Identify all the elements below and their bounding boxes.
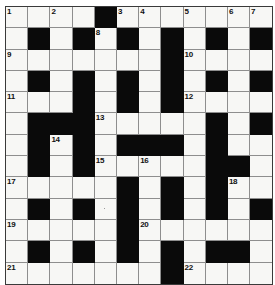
grid-letter-cell[interactable]: 13 (95, 113, 117, 134)
grid-letter-cell[interactable] (28, 220, 50, 241)
grid-letter-cell[interactable] (28, 50, 50, 71)
grid-letter-cell[interactable] (184, 28, 206, 49)
grid-letter-cell[interactable] (250, 177, 272, 198)
grid-letter-cell[interactable] (50, 199, 72, 220)
grid-letter-cell[interactable] (184, 135, 206, 156)
grid-letter-cell[interactable] (50, 263, 72, 284)
grid-letter-cell[interactable] (228, 92, 250, 113)
grid-letter-cell[interactable] (250, 241, 272, 262)
grid-letter-cell[interactable] (50, 177, 72, 198)
grid-letter-cell[interactable] (206, 92, 228, 113)
grid-letter-cell[interactable]: 7 (250, 7, 272, 28)
grid-letter-cell[interactable]: 5 (184, 7, 206, 28)
grid-letter-cell[interactable] (73, 50, 95, 71)
grid-letter-cell[interactable] (250, 135, 272, 156)
grid-letter-cell[interactable] (73, 7, 95, 28)
grid-letter-cell[interactable] (161, 220, 183, 241)
grid-letter-cell[interactable] (228, 28, 250, 49)
grid-letter-cell[interactable]: 11 (6, 92, 28, 113)
grid-letter-cell[interactable] (95, 135, 117, 156)
grid-letter-cell[interactable] (139, 177, 161, 198)
grid-letter-cell[interactable] (139, 241, 161, 262)
grid-letter-cell[interactable] (206, 220, 228, 241)
grid-letter-cell[interactable] (139, 263, 161, 284)
grid-letter-cell[interactable] (6, 241, 28, 262)
grid-letter-cell[interactable]: 21 (6, 263, 28, 284)
grid-letter-cell[interactable] (6, 28, 28, 49)
grid-letter-cell[interactable] (161, 113, 183, 134)
grid-letter-cell[interactable] (50, 241, 72, 262)
grid-letter-cell[interactable] (50, 220, 72, 241)
grid-letter-cell[interactable] (95, 263, 117, 284)
grid-letter-cell[interactable] (206, 50, 228, 71)
grid-letter-cell[interactable] (250, 156, 272, 177)
grid-letter-cell[interactable]: 14 (50, 135, 72, 156)
grid-letter-cell[interactable]: 17 (6, 177, 28, 198)
grid-letter-cell[interactable] (250, 50, 272, 71)
grid-letter-cell[interactable] (95, 220, 117, 241)
grid-letter-cell[interactable] (206, 263, 228, 284)
grid-letter-cell[interactable] (6, 71, 28, 92)
grid-letter-cell[interactable] (6, 199, 28, 220)
grid-letter-cell[interactable] (184, 177, 206, 198)
grid-letter-cell[interactable] (117, 156, 139, 177)
grid-letter-cell[interactable] (228, 199, 250, 220)
grid-letter-cell[interactable] (6, 135, 28, 156)
grid-letter-cell[interactable] (139, 50, 161, 71)
grid-letter-cell[interactable]: 15 (95, 156, 117, 177)
grid-letter-cell[interactable] (95, 92, 117, 113)
grid-letter-cell[interactable] (139, 28, 161, 49)
grid-letter-cell[interactable] (228, 220, 250, 241)
grid-letter-cell[interactable] (73, 177, 95, 198)
grid-letter-cell[interactable]: 18 (228, 177, 250, 198)
grid-letter-cell[interactable] (95, 71, 117, 92)
grid-letter-cell[interactable] (139, 71, 161, 92)
grid-letter-cell[interactable] (95, 177, 117, 198)
grid-letter-cell[interactable] (50, 92, 72, 113)
grid-letter-cell[interactable] (28, 92, 50, 113)
grid-letter-cell[interactable] (139, 92, 161, 113)
grid-letter-cell[interactable] (95, 50, 117, 71)
grid-letter-cell[interactable] (184, 199, 206, 220)
grid-letter-cell[interactable] (228, 263, 250, 284)
grid-letter-cell[interactable] (161, 156, 183, 177)
grid-letter-cell[interactable] (228, 135, 250, 156)
grid-letter-cell[interactable]: 4 (139, 7, 161, 28)
grid-letter-cell[interactable]: 12 (184, 92, 206, 113)
grid-letter-cell[interactable] (50, 50, 72, 71)
grid-letter-cell[interactable] (117, 113, 139, 134)
grid-letter-cell[interactable] (250, 263, 272, 284)
grid-letter-cell[interactable] (206, 7, 228, 28)
grid-letter-cell[interactable]: 22 (184, 263, 206, 284)
grid-letter-cell[interactable]: 9 (6, 50, 28, 71)
grid-letter-cell[interactable] (184, 220, 206, 241)
grid-letter-cell[interactable] (117, 263, 139, 284)
grid-letter-cell[interactable]: 3 (117, 7, 139, 28)
grid-letter-cell[interactable]: 10 (184, 50, 206, 71)
grid-letter-cell[interactable] (184, 156, 206, 177)
grid-letter-cell[interactable] (95, 199, 117, 220)
grid-letter-cell[interactable] (73, 220, 95, 241)
grid-letter-cell[interactable] (6, 113, 28, 134)
crossword-grid[interactable]: 12345678910111213141516171819202122 (5, 6, 273, 285)
grid-letter-cell[interactable] (161, 7, 183, 28)
grid-letter-cell[interactable] (28, 7, 50, 28)
grid-letter-cell[interactable] (6, 156, 28, 177)
grid-letter-cell[interactable] (250, 220, 272, 241)
grid-letter-cell[interactable]: 6 (228, 7, 250, 28)
grid-letter-cell[interactable] (73, 263, 95, 284)
grid-letter-cell[interactable]: 19 (6, 220, 28, 241)
grid-letter-cell[interactable] (95, 241, 117, 262)
grid-letter-cell[interactable] (50, 71, 72, 92)
grid-letter-cell[interactable] (228, 71, 250, 92)
grid-letter-cell[interactable] (50, 28, 72, 49)
grid-letter-cell[interactable] (228, 113, 250, 134)
grid-letter-cell[interactable] (184, 241, 206, 262)
grid-letter-cell[interactable] (28, 263, 50, 284)
grid-letter-cell[interactable] (117, 50, 139, 71)
grid-letter-cell[interactable]: 20 (139, 220, 161, 241)
grid-letter-cell[interactable] (139, 113, 161, 134)
grid-letter-cell[interactable] (28, 177, 50, 198)
grid-letter-cell[interactable] (184, 71, 206, 92)
grid-letter-cell[interactable] (50, 156, 72, 177)
